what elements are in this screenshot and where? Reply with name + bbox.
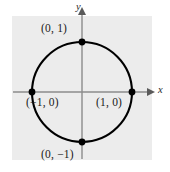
point-label-left: (−1, 0) — [26, 96, 59, 108]
unit-circle-figure: (0, 1) (−1, 0) (1, 0) (0, −1) x y — [0, 0, 170, 172]
diagram-canvas — [0, 0, 170, 172]
point-label-top: (0, 1) — [41, 22, 67, 34]
point-label-right: (1, 0) — [96, 96, 122, 108]
point-1-0 — [129, 89, 136, 96]
x-axis-label: x — [158, 84, 163, 95]
point-neg1-0 — [29, 89, 36, 96]
point-0-1 — [79, 39, 86, 46]
y-axis-label: y — [76, 1, 81, 12]
point-label-bottom: (0, −1) — [41, 148, 74, 160]
point-0-neg1 — [79, 139, 86, 146]
